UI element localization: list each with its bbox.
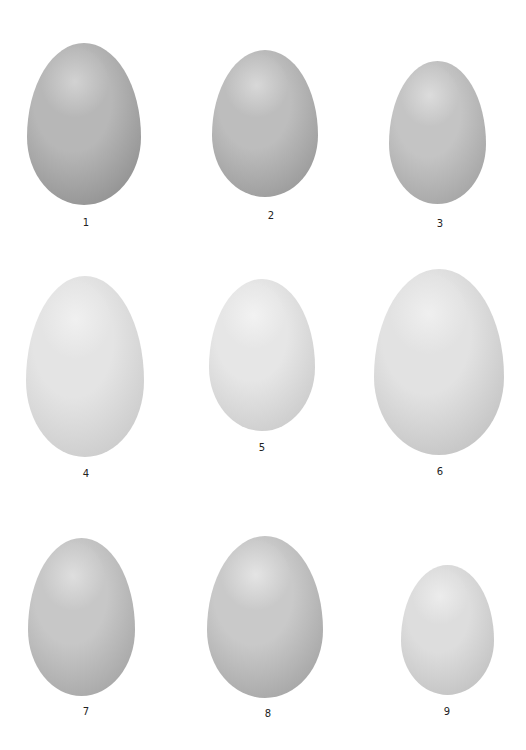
egg-illustration: [401, 565, 494, 695]
egg-illustration: [389, 61, 486, 204]
egg-number-label: 1: [83, 217, 89, 228]
egg-illustration: [374, 269, 504, 455]
egg-illustration: [212, 50, 318, 197]
egg-illustration: [209, 279, 315, 431]
egg-number-label: 5: [259, 442, 265, 453]
egg-illustration: [26, 276, 144, 457]
egg-number-label: 7: [83, 706, 89, 717]
egg-illustration: [27, 43, 141, 205]
egg-number-label: 2: [268, 210, 274, 221]
egg-number-label: 3: [437, 218, 443, 229]
egg-illustration: [28, 538, 135, 696]
egg-number-label: 8: [265, 708, 271, 719]
egg-illustration: [207, 536, 323, 698]
egg-number-label: 4: [83, 468, 89, 479]
egg-number-label: 6: [437, 466, 443, 477]
egg-number-label: 9: [444, 706, 450, 717]
